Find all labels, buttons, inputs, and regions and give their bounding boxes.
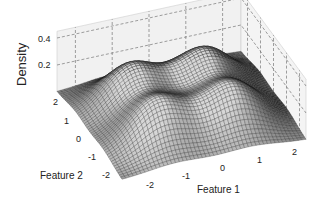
x-tick-label: 1 (257, 155, 262, 165)
y-tick-label: 0 (76, 134, 81, 144)
y-tick-label: 2 (53, 97, 58, 107)
x-tick-label: 0 (220, 163, 225, 173)
z-tick-label: 0.4 (38, 34, 51, 44)
x-tick-label: 2 (292, 147, 297, 157)
x-tick-label: -2 (146, 180, 154, 190)
y-tick-label: -1 (88, 152, 96, 162)
z-tick-label: 0.2 (38, 60, 51, 70)
z-axis-label: Density (14, 43, 29, 86)
x-axis-label: Feature 1 (197, 184, 240, 195)
x-tick-label: -1 (182, 171, 190, 181)
surface-plot-figure: 0.4 0.2 Density 2 1 0 -1 -2 Feature 2 -2… (0, 0, 324, 203)
y-tick-label: -2 (102, 170, 110, 180)
y-axis-label: Feature 2 (40, 170, 83, 181)
y-tick-label: 1 (64, 116, 69, 126)
